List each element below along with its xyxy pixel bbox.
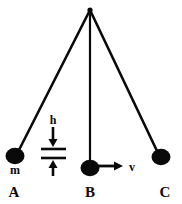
pendulum-diagram: m h v A B C (0, 0, 182, 204)
pivot-point (87, 7, 92, 12)
position-label-c: C (160, 184, 171, 200)
position-label-b: B (85, 184, 95, 200)
bob-position-b (81, 160, 100, 176)
pendulum-diagram-canvas: m h v A B C (0, 0, 182, 204)
mass-label: m (10, 163, 20, 177)
bob-position-a (6, 148, 25, 164)
velocity-label: v (129, 160, 135, 174)
bob-position-c (152, 149, 171, 165)
height-label: h (50, 113, 57, 127)
position-label-a: A (9, 184, 20, 200)
